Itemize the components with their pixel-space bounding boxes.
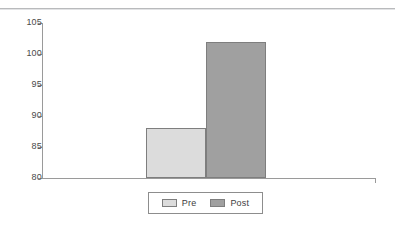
- y-axis-tick-label: 100: [8, 49, 42, 58]
- y-axis-tick-label: 80: [8, 173, 42, 182]
- y-axis-tick-label: 90: [8, 111, 42, 120]
- legend-label-pre: Pre: [182, 199, 197, 208]
- bar-pre[interactable]: [146, 128, 206, 178]
- legend-item-pre[interactable]: Pre: [162, 199, 197, 208]
- legend-label-post: Post: [230, 199, 249, 208]
- chart-legend: Pre Post: [148, 192, 263, 214]
- legend-item-post[interactable]: Post: [210, 199, 249, 208]
- x-axis-end-tick: [375, 178, 376, 183]
- legend-swatch-post: [210, 199, 225, 207]
- y-axis-tick-label: 85: [8, 142, 42, 151]
- bar-post[interactable]: [206, 42, 266, 178]
- y-axis-tick-label: 105: [8, 18, 42, 27]
- y-axis-tick-label: 95: [8, 80, 42, 89]
- chart-figure: 10510095908580 Pre Post: [0, 0, 395, 226]
- y-axis-line: [42, 23, 43, 179]
- x-axis-line: [42, 178, 376, 179]
- legend-swatch-pre: [162, 199, 177, 207]
